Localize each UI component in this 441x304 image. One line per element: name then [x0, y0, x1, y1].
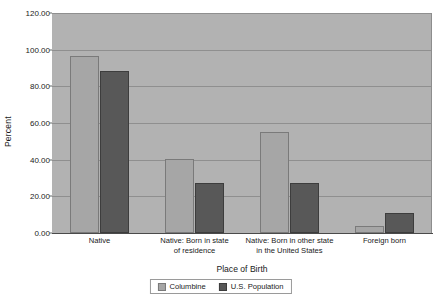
y-axis-tick-label: 120.00 — [14, 9, 50, 18]
bar — [355, 226, 384, 233]
legend: ColumbineU.S. Population — [149, 279, 291, 294]
y-axis-tick-mark — [49, 123, 52, 124]
x-axis-line — [52, 233, 433, 234]
legend-label: Columbine — [169, 282, 205, 291]
bar — [385, 213, 414, 233]
legend-swatch-icon — [219, 283, 227, 291]
x-axis-category-label-line: in the United States — [232, 246, 347, 256]
x-axis-title: Place of Birth — [52, 264, 432, 274]
bar — [165, 159, 194, 233]
y-axis-tick-label: 100.00 — [14, 45, 50, 54]
bars-layer — [52, 13, 431, 233]
y-axis-tick-mark — [49, 86, 52, 87]
x-axis-category-labels: NativeNative: Born in stateof residenceN… — [52, 236, 432, 262]
bar — [100, 71, 129, 233]
y-axis-tick-label: 40.00 — [14, 155, 50, 164]
y-axis-tick-mark — [49, 159, 52, 160]
x-axis-category-label: Foreign born — [327, 236, 441, 246]
y-axis-tick-label: 60.00 — [14, 119, 50, 128]
legend-swatch-icon — [157, 283, 165, 291]
x-axis-category-label-line: Foreign born — [327, 236, 441, 246]
y-axis-tick-labels: 0.0020.0040.0060.0080.00100.00120.00 — [14, 0, 50, 304]
y-axis-tick-label: 80.00 — [14, 82, 50, 91]
y-axis-tick-mark — [49, 49, 52, 50]
plot-area — [52, 13, 432, 233]
bar — [290, 183, 319, 233]
y-axis-tick-mark — [49, 13, 52, 14]
legend-label: U.S. Population — [231, 282, 284, 291]
bar — [195, 183, 224, 233]
legend-entry: Columbine — [157, 282, 205, 291]
y-axis-tick-mark — [49, 196, 52, 197]
legend-entry: U.S. Population — [219, 282, 284, 291]
y-axis-tick-mark — [49, 233, 52, 234]
bar — [260, 132, 289, 233]
y-axis-tick-label: 20.00 — [14, 192, 50, 201]
bar-chart: Percent 0.0020.0040.0060.0080.00100.0012… — [0, 0, 441, 304]
bar — [70, 56, 99, 233]
